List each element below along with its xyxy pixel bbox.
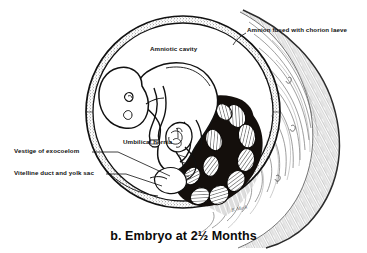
label-amniotic-cavity: Amniotic cavity [150, 46, 197, 52]
label-umbilical-hernia: Umbilical hernia [123, 139, 172, 145]
embryo-illustration [0, 0, 367, 253]
label-vestige-of-exocoelom: Vestige of exocoelom [14, 148, 79, 154]
figure-caption: b. Embryo at 2½ Months [0, 229, 367, 243]
label-vitelline-duct-and-yolk-sac: Vitelline duct and yolk sac [14, 170, 94, 176]
label-amnion-fused-with-chorion-laeve: Amnion fused with chorion laeve [247, 27, 347, 33]
figure-container: Amnion fused with chorion laeve Amniotic… [0, 0, 367, 253]
